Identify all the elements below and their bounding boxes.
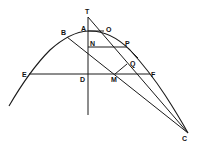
chord-BC [67, 37, 188, 133]
label-D: D [80, 76, 85, 83]
label-T: T [85, 8, 90, 15]
tangent-line-TC [88, 17, 188, 133]
label-Q: Q [130, 60, 136, 68]
geometry-diagram: T A O B N P Q E D M F C [0, 0, 200, 147]
curve [9, 31, 188, 133]
label-C: C [182, 135, 187, 142]
tangent-tick-P [128, 48, 138, 58]
label-M: M [111, 76, 117, 83]
label-B: B [61, 29, 66, 36]
label-E: E [22, 71, 27, 78]
label-P: P [125, 40, 130, 47]
label-F: F [151, 71, 156, 78]
label-A: A [81, 25, 86, 32]
label-O: O [106, 26, 112, 33]
segment-MQ [115, 64, 127, 74]
label-N: N [90, 40, 95, 47]
